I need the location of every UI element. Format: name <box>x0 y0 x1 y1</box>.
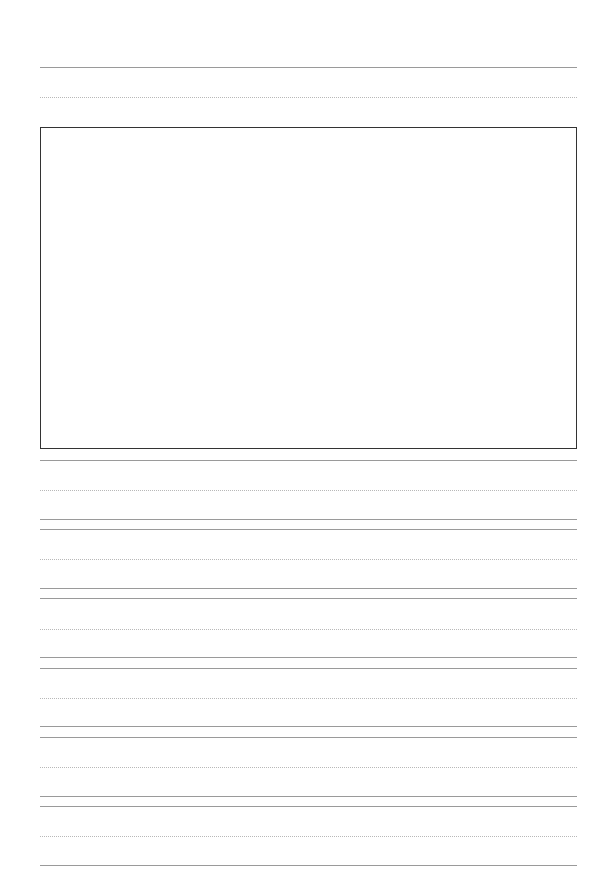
header-midline-dotted <box>40 97 577 98</box>
row-6-midline-dotted <box>40 836 577 837</box>
row-6-top-line <box>40 806 577 807</box>
row-1-midline-dotted <box>40 490 577 491</box>
row-3-midline-dotted <box>40 629 577 630</box>
row-3-base-line <box>40 657 577 658</box>
row-6-base-line <box>40 865 577 866</box>
row-4-midline-dotted <box>40 698 577 699</box>
row-4-top-line <box>40 668 577 669</box>
practice-page <box>0 0 607 895</box>
row-1-top-line <box>40 460 577 461</box>
row-5-top-line <box>40 737 577 738</box>
row-3-top-line <box>40 598 577 599</box>
row-1-base-line <box>40 519 577 520</box>
drawing-box[interactable] <box>40 127 577 449</box>
row-2-base-line <box>40 588 577 589</box>
row-5-midline-dotted <box>40 767 577 768</box>
row-5-base-line <box>40 796 577 797</box>
header-top-line <box>40 67 577 68</box>
row-4-base-line <box>40 726 577 727</box>
row-2-top-line <box>40 529 577 530</box>
row-2-midline-dotted <box>40 559 577 560</box>
